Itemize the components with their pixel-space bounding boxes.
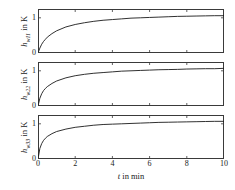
xtick-label-5: 10 (220, 160, 228, 168)
yaxis-label-hw33: hw33 in K (20, 121, 33, 152)
curve-hw22 (38, 62, 224, 106)
curve-hw11 (38, 9, 224, 53)
figure-root: 0 1 hw11 in K 0 1 hw22 in K 0 1 hw33 in … (0, 0, 235, 190)
yaxis-label-hw22: hw22 in K (20, 68, 33, 99)
yaxis-unit-hw33: in K (19, 121, 29, 138)
yaxis-unit-hw22: in K (19, 68, 29, 85)
yaxis-label-hw11: hw11 in K (20, 15, 33, 46)
yaxis-subscript-hw22: w22 (25, 85, 31, 95)
xtick-label-1: 2 (73, 160, 77, 168)
xtick-label-0: 0 (36, 160, 40, 168)
xtick-label-2: 4 (110, 160, 114, 168)
subplot-hw22: 0 1 hw22 in K (38, 62, 224, 106)
ytick-label-hw22-0: 0 (32, 102, 36, 110)
yaxis-subscript-hw11: w11 (25, 32, 31, 42)
xtick-label-3: 6 (148, 160, 152, 168)
curve-hw33 (38, 115, 224, 159)
yaxis-unit-hw11: in K (19, 15, 29, 32)
xaxis-label: t in min (38, 172, 224, 181)
subplot-hw11: 0 1 hw11 in K (38, 9, 224, 53)
yaxis-subscript-hw33: w33 (25, 138, 31, 148)
ytick-label-hw11-0: 0 (32, 49, 36, 57)
xtick-label-4: 8 (185, 160, 189, 168)
subplot-hw33: 0 1 hw33 in K 0246810 (38, 115, 224, 159)
xaxis-unit: in min (120, 171, 144, 181)
